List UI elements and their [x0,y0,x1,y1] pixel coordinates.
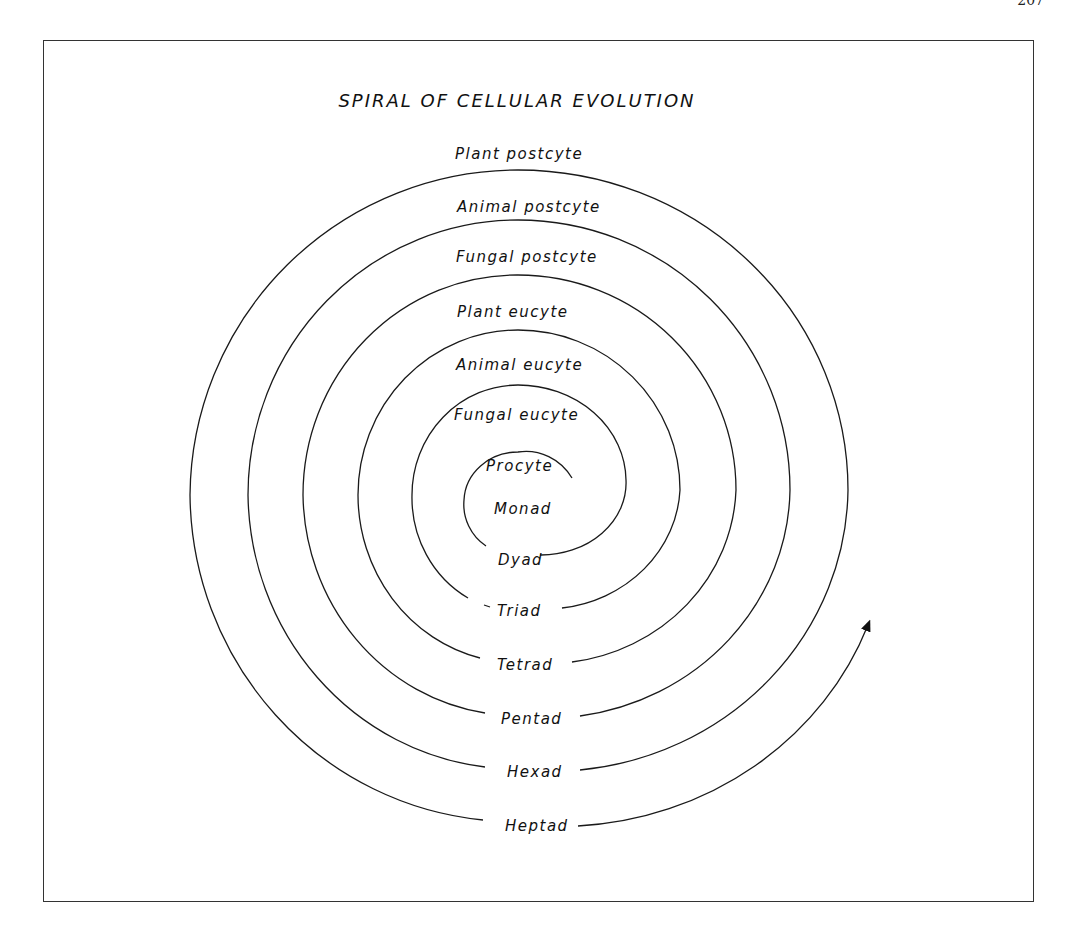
label-procyte: Procyte [486,457,553,475]
bottom-labels: Dyad Triad Tetrad Pentad Hexad Heptad [497,551,569,835]
label-plant-postcyte: Plant postcyte [455,145,583,163]
label-animal-postcyte: Animal postcyte [456,198,601,216]
label-hexad: Hexad [507,763,563,781]
top-labels: Plant postcyte Animal postcyte Fungal po… [454,145,601,475]
label-tetrad: Tetrad [497,656,553,674]
label-pentad: Pentad [501,710,562,728]
diagram-title: SPIRAL OF CELLULAR EVOLUTION [338,90,695,111]
label-dyad: Dyad [498,551,543,569]
spiral-diagram: SPIRAL OF CELLULAR EVOLUTION Plant postc… [0,0,1068,941]
label-plant-eucyte: Plant eucyte [457,303,569,321]
label-animal-eucyte: Animal eucyte [455,356,583,374]
label-heptad: Heptad [505,817,569,835]
label-fungal-postcyte: Fungal postcyte [456,248,598,266]
label-triad: Triad [497,602,542,620]
label-fungal-eucyte: Fungal eucyte [454,406,579,424]
label-monad: Monad [494,500,552,518]
